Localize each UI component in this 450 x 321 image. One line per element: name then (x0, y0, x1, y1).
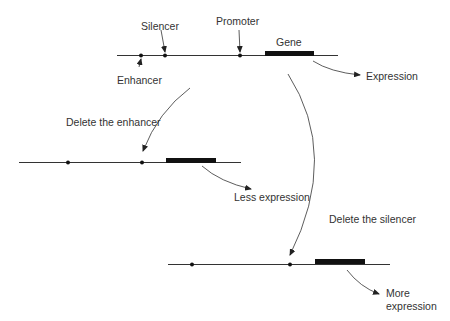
top-dna-construct (117, 30, 360, 75)
gene-box (315, 259, 365, 264)
less-expression-label: Less expression (234, 191, 310, 203)
more-expression-label-line2: expression (386, 300, 437, 312)
expression-label: Expression (366, 70, 418, 82)
gene-regulation-diagram (0, 0, 450, 321)
silencer-deleted-construct (168, 259, 390, 294)
delete-silencer-arrow (288, 74, 315, 255)
promoter-site (238, 54, 242, 58)
delete-enhancer-label: Delete the enhancer (66, 116, 161, 128)
gene-box (166, 158, 216, 163)
enhancer-label: Enhancer (117, 74, 162, 86)
promoter-label: Promoter (216, 15, 259, 27)
gene-box (265, 51, 314, 56)
gene-label: Gene (276, 36, 302, 48)
silencer-label: Silencer (141, 20, 179, 32)
enhancer-deleted-construct (19, 158, 251, 189)
enhancer-site (139, 54, 143, 58)
more-expression-label-line1: More (386, 287, 410, 299)
silencer-site (163, 54, 167, 58)
delete-silencer-label: Delete the silencer (329, 213, 416, 225)
